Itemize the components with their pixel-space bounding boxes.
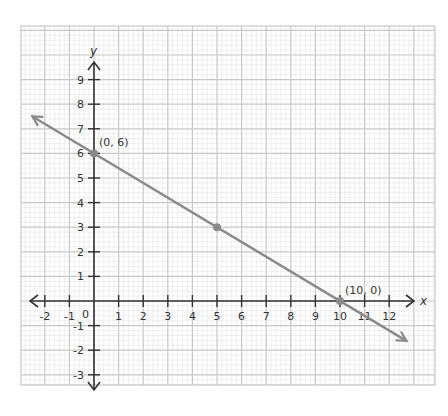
point-marker: [213, 223, 221, 231]
origin-label: 0: [82, 308, 89, 321]
y-tick-label: 1: [77, 270, 84, 283]
point-label: (0, 6): [99, 136, 129, 149]
point-marker: [336, 297, 344, 305]
x-tick-label: -2: [39, 310, 50, 323]
x-tick-label: 7: [263, 310, 270, 323]
y-tick-label: 5: [77, 172, 84, 185]
y-tick-label: 4: [77, 197, 84, 210]
x-tick-label: 9: [312, 310, 319, 323]
x-tick-label: 12: [382, 310, 396, 323]
point-marker: [90, 149, 98, 157]
y-tick-label: 9: [77, 74, 84, 87]
x-tick-label: 3: [164, 310, 171, 323]
y-axis-label: y: [89, 44, 98, 58]
point-label: (10, 0): [345, 284, 382, 297]
x-tick-label: 6: [238, 310, 245, 323]
x-tick-label: 4: [189, 310, 196, 323]
y-tick-label: 2: [77, 246, 84, 259]
y-tick-label: -3: [73, 369, 84, 382]
x-tick-label: 5: [214, 310, 221, 323]
y-tick-label: -2: [73, 344, 84, 357]
data-points: (0, 6)(10, 0): [90, 136, 382, 305]
y-tick-label: 8: [77, 98, 84, 111]
x-tick-label: 10: [333, 310, 347, 323]
coordinate-plane: -2-1123456789101112987654321-1-2-3 (0, 6…: [0, 0, 448, 416]
y-tick-label: 3: [77, 221, 84, 234]
y-tick-label: -1: [73, 320, 84, 333]
x-axis-label: x: [419, 294, 428, 308]
y-tick-label: 7: [77, 123, 84, 136]
x-tick-label: 8: [287, 310, 294, 323]
x-tick-label: 1: [115, 310, 122, 323]
x-tick-label: 2: [140, 310, 147, 323]
y-tick-label: 6: [77, 147, 84, 160]
